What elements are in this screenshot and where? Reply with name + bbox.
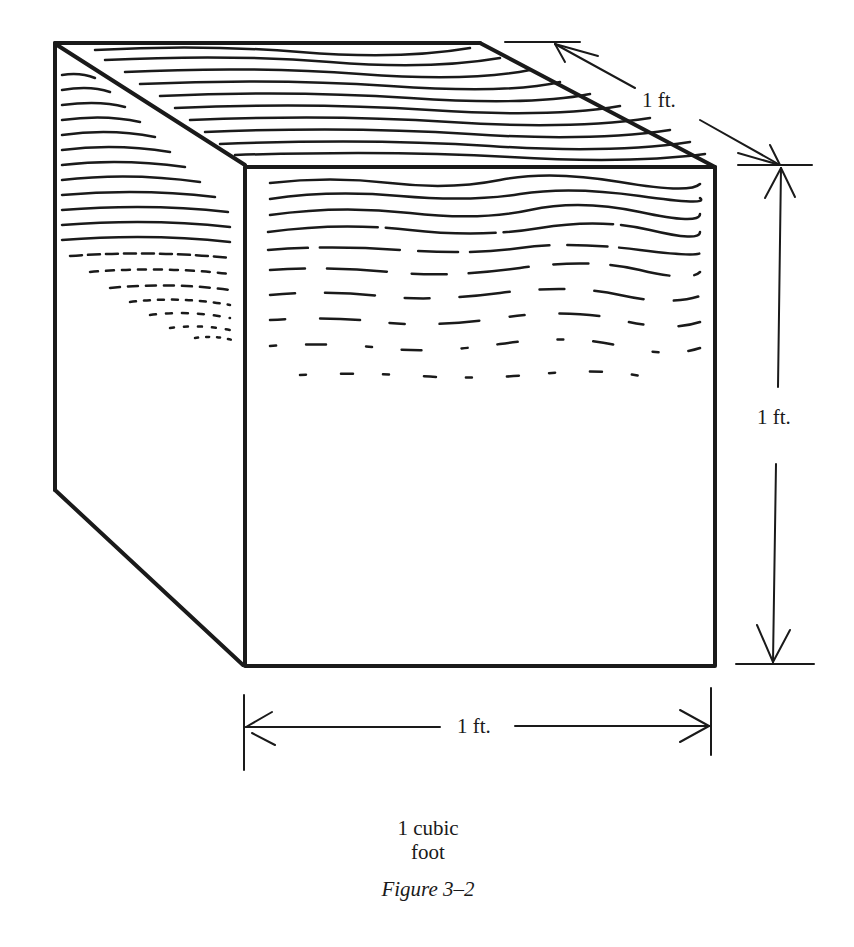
depth-label: 1 ft. [642,88,676,113]
front-face-shading [268,175,701,377]
cube-drawing [0,0,854,947]
figure-label: Figure 3–2 [328,877,528,902]
width-label: 1 ft. [457,714,491,739]
height-label: 1 ft. [757,405,791,430]
top-face-shading [95,47,705,159]
caption-line-2: foot [328,840,528,864]
caption-line-1: 1 cubic [328,816,528,840]
left-face-shading [62,74,232,340]
caption: 1 cubic foot [328,816,528,864]
